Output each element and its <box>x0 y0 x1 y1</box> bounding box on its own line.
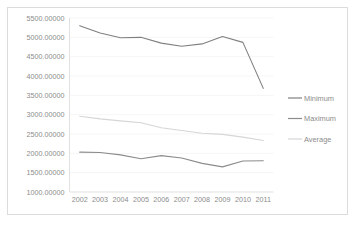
y-tick-label: 2500.00000 <box>27 130 65 139</box>
x-tick-label: 2002 <box>72 195 88 204</box>
x-tick-label: 2003 <box>92 195 108 204</box>
x-tick-label: 2009 <box>215 195 231 204</box>
y-tick-label: 2000.00000 <box>27 149 65 158</box>
legend-label-minimum: Minimum <box>304 94 334 103</box>
legend-label-average: Average <box>304 135 331 144</box>
x-tick-label: 2008 <box>194 195 210 204</box>
series-line-average <box>80 116 264 140</box>
y-axis-tick-labels: 5500.000005000.000004500.000004000.00000… <box>27 14 65 197</box>
series-line-minimum <box>80 26 264 89</box>
x-tick-label: 2011 <box>256 195 271 204</box>
y-tick-label: 1500.00000 <box>27 168 65 177</box>
x-tick-label: 2010 <box>235 195 251 204</box>
y-tick-label: 5000.00000 <box>27 33 65 42</box>
y-tick-label: 4000.00000 <box>27 72 65 81</box>
chart-legend: MinimumMaximumAverage <box>288 94 336 144</box>
series-line-maximum <box>80 152 264 167</box>
axis-lines <box>70 18 274 192</box>
x-axis-tick-labels: 2002200320042005200620072008200920102011 <box>72 195 271 204</box>
y-tick-label: 5500.00000 <box>27 14 65 23</box>
x-tick-label: 2004 <box>113 195 129 204</box>
y-tick-label: 3000.00000 <box>27 110 65 119</box>
x-tick-label: 2006 <box>153 195 169 204</box>
y-tick-label: 4500.00000 <box>27 52 65 61</box>
y-tick-label: 1000.00000 <box>27 188 65 197</box>
x-tick-label: 2005 <box>133 195 149 204</box>
line-chart: 5500.000005000.000004500.000004000.00000… <box>0 0 356 230</box>
legend-label-maximum: Maximum <box>304 114 336 123</box>
y-tick-label: 3500.00000 <box>27 91 65 100</box>
x-tick-label: 2007 <box>174 195 190 204</box>
gridlines <box>70 18 274 173</box>
data-series-group <box>80 26 264 167</box>
